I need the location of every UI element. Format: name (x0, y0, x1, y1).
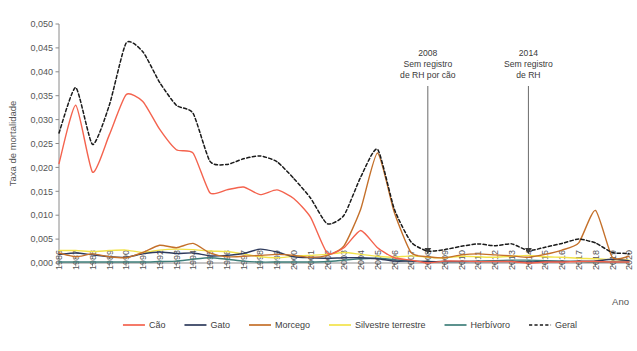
x-tick-label-1990: 1990 (121, 250, 131, 270)
ann-2014-line1: 2014 (519, 48, 538, 58)
x-axis-title: Ano (612, 296, 629, 307)
legend-label-morcego: Morcego (275, 320, 310, 330)
y-axis-title: Taxa de mortalidade (7, 101, 18, 187)
x-tick-label-2000: 2000 (289, 250, 299, 270)
y-tick-label-4: 0,020 (30, 163, 53, 173)
x-tick-label-2001: 2001 (306, 250, 316, 270)
legend-label-geral: Geral (555, 320, 577, 330)
x-tick-label-1989: 1989 (105, 250, 115, 270)
x-tick-label-2009: 2009 (440, 250, 450, 270)
ann-2014-line3: de RH (516, 70, 540, 80)
y-tick-label-10: 0,050 (30, 19, 53, 29)
legend-label-gato: Gato (210, 320, 230, 330)
y-tick-label-8: 0,040 (30, 67, 53, 77)
series-line-morcego (59, 153, 629, 259)
x-tick-label-2010: 2010 (457, 250, 467, 270)
x-tick-label-1998: 1998 (255, 250, 265, 270)
y-tick-label-2: 0,010 (30, 210, 53, 220)
ann-2008-line1: 2008 (418, 48, 437, 58)
y-tick-label-7: 0,035 (30, 91, 53, 101)
x-tick-label-1988: 1988 (88, 250, 98, 270)
x-tick-label-2004: 2004 (356, 250, 366, 270)
ann-2008-line3: de RH por cão (400, 70, 456, 80)
rabies-mortality-chart-figure: 0,0000,0050,0100,0150,0200,0250,0300,035… (0, 0, 637, 351)
y-tick-label-5: 0,025 (30, 139, 53, 149)
ann-2008-line2: Sem registro (403, 59, 452, 69)
x-tick-label-1992: 1992 (155, 250, 165, 270)
y-tick-label-3: 0,015 (30, 187, 53, 197)
legend-label-silvestre-terrestre: Silvestre terrestre (355, 320, 426, 330)
y-tick-label-0: 0,000 (30, 258, 53, 268)
series-line-geral (59, 42, 629, 254)
figure-caption (8, 340, 637, 351)
y-tick-label-1: 0,005 (30, 234, 53, 244)
legend-label-herbívoro: Herbívoro (471, 320, 511, 330)
y-tick-label-6: 0,030 (30, 115, 53, 125)
chart-canvas: 0,0000,0050,0100,0150,0200,0250,0300,035… (0, 0, 637, 351)
legend-label-cão: Cão (149, 320, 166, 330)
y-tick-label-9: 0,045 (30, 43, 53, 53)
x-tick-label-2017: 2017 (574, 250, 584, 270)
series-line-cão (59, 94, 629, 263)
x-tick-label-2016: 2016 (557, 250, 567, 270)
ann-2014-line2: Sem registro (504, 59, 553, 69)
x-tick-label-2005: 2005 (373, 250, 383, 270)
